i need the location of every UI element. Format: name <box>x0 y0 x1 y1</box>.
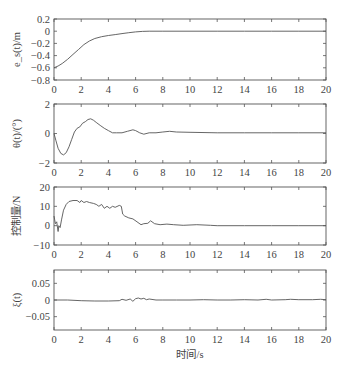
y-tick-label: −0.6 <box>31 62 50 73</box>
y-tick-label: 10 <box>40 201 51 212</box>
x-tick-label: 6 <box>133 84 138 95</box>
y-tick-label: 0 <box>45 295 50 306</box>
y-tick-label: 0 <box>45 26 50 37</box>
x-tick-label: 14 <box>239 84 250 95</box>
x-tick-label: 6 <box>133 167 138 178</box>
y-tick-label: 0.2 <box>37 14 50 25</box>
x-tick-label: 18 <box>294 167 305 178</box>
subplot-1: 02468101214161820−0.8−0.6−0.4−0.200.2e_s… <box>11 14 331 96</box>
x-tick-label: 16 <box>266 167 277 178</box>
x-tick-label: 8 <box>160 167 165 178</box>
x-tick-label: 0 <box>51 249 56 260</box>
chart-figure: 02468101214161820−0.8−0.6−0.4−0.200.2e_s… <box>0 0 344 375</box>
y-tick-label: 20 <box>40 182 51 193</box>
x-tick-label: 12 <box>212 84 223 95</box>
x-tick-label: 4 <box>106 167 112 178</box>
x-tick-label: 20 <box>321 167 332 178</box>
x-tick-label: 20 <box>321 334 332 345</box>
x-tick-label: 18 <box>294 84 305 95</box>
x-tick-label: 16 <box>266 334 277 345</box>
x-tick-label: 14 <box>239 167 250 178</box>
x-tick-label: 0 <box>51 84 56 95</box>
x-tick-label: 16 <box>266 84 277 95</box>
x-tick-label: 0 <box>51 334 56 345</box>
x-tick-label: 0 <box>51 167 56 178</box>
subplot-3: 02468101214161820−1001020控制量/N <box>10 182 331 261</box>
y-tick-label: 0 <box>45 220 50 231</box>
x-tick-label: 10 <box>185 249 196 260</box>
x-tick-label: 10 <box>185 84 196 95</box>
x-tick-label: 12 <box>212 334 223 345</box>
axes-frame <box>54 19 326 80</box>
x-tick-label: 16 <box>266 249 277 260</box>
y-tick-label: −10 <box>34 240 50 251</box>
x-tick-label: 4 <box>106 249 112 260</box>
x-tick-label: 2 <box>79 167 84 178</box>
series-line <box>54 298 326 301</box>
x-tick-label: 2 <box>79 249 84 260</box>
x-tick-label: 20 <box>321 84 332 95</box>
x-tick-label: 18 <box>294 249 305 260</box>
x-tick-label: 6 <box>133 249 138 260</box>
x-tick-label: 10 <box>185 334 196 345</box>
y-axis-label: 控制量/N <box>10 195 22 236</box>
y-tick-label: 2 <box>45 99 50 110</box>
x-tick-label: 12 <box>212 167 223 178</box>
x-tick-label: 10 <box>185 167 196 178</box>
subplot-2: 02468101214161820−202θ(t)/(°) <box>11 99 331 179</box>
y-axis-label: ξ(t) <box>11 292 23 307</box>
y-tick-label: 0.05 <box>32 278 50 289</box>
x-tick-label: 12 <box>212 249 223 260</box>
y-tick-label: −0.4 <box>31 50 51 61</box>
x-tick-label: 2 <box>79 334 84 345</box>
x-tick-label: 14 <box>239 334 250 345</box>
axes-frame <box>54 104 326 163</box>
x-tick-label: 4 <box>106 84 112 95</box>
y-tick-label: −0.05 <box>26 311 50 322</box>
x-axis-label: 时间/s <box>176 348 203 360</box>
x-tick-label: 2 <box>79 84 84 95</box>
x-tick-label: 6 <box>133 334 138 345</box>
x-tick-label: 18 <box>294 334 305 345</box>
y-axis-label: e_s(t)/m <box>11 32 23 67</box>
x-tick-label: 14 <box>239 249 250 260</box>
y-tick-label: −0.2 <box>31 38 50 49</box>
x-tick-label: 4 <box>106 334 112 345</box>
axes-frame <box>54 187 326 245</box>
x-tick-label: 20 <box>321 249 332 260</box>
x-tick-label: 8 <box>160 249 165 260</box>
x-tick-label: 8 <box>160 84 165 95</box>
y-tick-label: 0 <box>45 128 50 139</box>
x-tick-label: 8 <box>160 334 165 345</box>
series-line <box>54 31 326 68</box>
y-axis-label: θ(t)/(°) <box>11 118 23 148</box>
subplot-4: 02468101214161820−0.0500.05ξ(t) <box>11 270 331 345</box>
series-line <box>54 201 326 232</box>
series-line <box>54 119 326 155</box>
y-tick-label: −2 <box>39 158 50 169</box>
y-tick-label: −0.8 <box>31 75 50 86</box>
